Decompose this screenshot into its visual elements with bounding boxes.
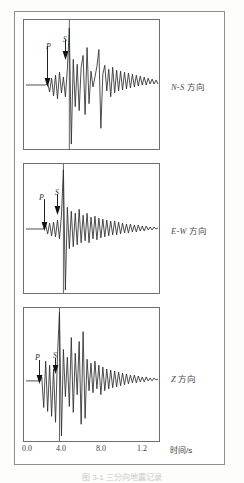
panel-label-ew-component: E-W xyxy=(171,226,187,236)
arrow-layer-ns xyxy=(24,20,161,151)
axis-tick-2: 8.0 xyxy=(96,444,106,453)
panel-label-ns-component: N-S xyxy=(171,82,184,92)
panel-label-ns-direction: 方向 xyxy=(184,82,205,92)
axis-tick-1: 4.0 xyxy=(56,444,66,453)
p-arrow-icon xyxy=(45,78,51,87)
axis-tick-0: 0.0 xyxy=(22,444,32,453)
axis-tick-3: 1.2 xyxy=(137,444,147,453)
s-marker-z: S xyxy=(53,344,57,362)
arrow-layer-z xyxy=(24,308,161,443)
p-marker-z: P xyxy=(35,346,40,364)
time-axis: 0.0 4.0 8.0 1.2 时间/s xyxy=(23,442,183,460)
seismogram-panel-ns: P S xyxy=(23,19,160,150)
s-arrow-icon xyxy=(53,365,59,374)
panel-label-z-direction: 方向 xyxy=(176,374,197,384)
p-marker-ew: P xyxy=(39,186,44,204)
figure-caption: 图 3-1 三分向地震记录 xyxy=(0,471,244,482)
p-arrow-icon xyxy=(42,222,48,231)
p-arrow-icon xyxy=(37,375,43,384)
s-label-ew: S xyxy=(55,188,59,197)
s-marker-ns: S xyxy=(63,28,67,46)
axis-title: 时间/s xyxy=(170,444,192,455)
seismogram-panel-z: P S xyxy=(23,307,160,442)
panel-label-ew: E-W 方向 xyxy=(171,224,207,236)
seismogram-panel-ew: P S xyxy=(23,163,160,294)
panel-label-ns: N-S 方向 xyxy=(171,80,205,92)
arrow-layer-ew xyxy=(24,164,161,295)
p-label-z: P xyxy=(35,353,40,362)
panel-label-ew-direction: 方向 xyxy=(187,226,208,236)
panel-label-z: Z 方向 xyxy=(171,372,197,384)
figure-frame: P S P S xyxy=(14,11,225,465)
s-label-z: S xyxy=(53,351,57,360)
s-arrow-icon xyxy=(63,51,69,60)
s-label-ns: S xyxy=(63,35,67,44)
s-arrow-icon xyxy=(55,206,61,215)
s-marker-ew: S xyxy=(55,181,59,199)
p-label-ew: P xyxy=(39,193,44,202)
